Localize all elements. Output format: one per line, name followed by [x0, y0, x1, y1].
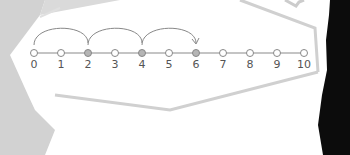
- dark-silhouette: [318, 0, 350, 155]
- tick-label-3: 3: [112, 58, 119, 71]
- tick-label-2: 2: [85, 58, 92, 71]
- tick-label-10: 10: [297, 58, 311, 71]
- tick-label-4: 4: [139, 58, 146, 71]
- open-dot-5: [166, 50, 173, 57]
- clip-shape: [285, 0, 304, 6]
- tick-label-0: 0: [31, 58, 38, 71]
- tick-label-1: 1: [58, 58, 65, 71]
- open-dot-8: [247, 50, 254, 57]
- tick-label-9: 9: [274, 58, 281, 71]
- tick-label-5: 5: [166, 58, 173, 71]
- tick-label-8: 8: [247, 58, 254, 71]
- tick-label-7: 7: [220, 58, 227, 71]
- filled-dot-6: [193, 50, 200, 57]
- filled-dot-2: [85, 50, 92, 57]
- filled-dot-4: [139, 50, 146, 57]
- number-line-diagram: 012345678910: [0, 0, 350, 155]
- tick-label-6: 6: [193, 58, 200, 71]
- open-dot-7: [220, 50, 227, 57]
- open-dot-3: [112, 50, 119, 57]
- open-dot-10: [301, 50, 308, 57]
- open-dot-0: [31, 50, 38, 57]
- open-dot-1: [58, 50, 65, 57]
- worksheet-scene: 012345678910: [0, 0, 350, 155]
- open-dot-9: [274, 50, 281, 57]
